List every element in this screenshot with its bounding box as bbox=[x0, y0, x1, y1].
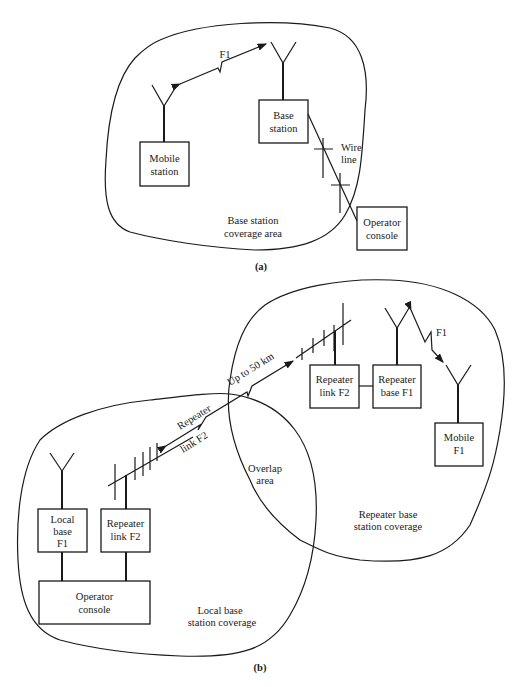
f1-label: F1 bbox=[219, 49, 230, 60]
mobile-label-1: Mobile bbox=[444, 432, 475, 443]
mobile-station-label-1: Mobile bbox=[149, 153, 180, 164]
remote-repeater-link-f2: Repeater link F2 bbox=[296, 303, 359, 408]
antenna-icon bbox=[385, 308, 409, 328]
overlap-label-2: area bbox=[256, 475, 274, 486]
local-coverage-label-2: station coverage bbox=[188, 617, 257, 628]
remote-repeater-base-label-2: base F1 bbox=[381, 387, 413, 398]
antenna-icon bbox=[446, 365, 471, 385]
operator-console-a: Operator console bbox=[357, 207, 407, 250]
wire-label-2: line bbox=[341, 154, 357, 165]
mobile-station: Mobile station bbox=[140, 85, 189, 186]
local-base-label-1: Local bbox=[51, 514, 75, 525]
antenna-icon bbox=[271, 42, 296, 63]
coverage-label-1: Base station bbox=[227, 215, 279, 226]
diagram-a: Mobile station Base station F1 Wire line… bbox=[105, 23, 407, 273]
remote-repeater-base-f1: Repeater base F1 bbox=[373, 308, 421, 408]
repeater-link-label-2: link F2 bbox=[178, 429, 209, 454]
base-station-label-2: station bbox=[270, 123, 299, 134]
remote-repeater-link-label-2: link F2 bbox=[319, 387, 349, 398]
caption-b: (b) bbox=[254, 662, 267, 674]
operator-console-label-1: Operator bbox=[363, 217, 401, 228]
mobile-label-2: F1 bbox=[453, 445, 464, 456]
remote-repeater-link-label-1: Repeater bbox=[316, 374, 354, 385]
wire-label-1: Wire bbox=[341, 142, 362, 153]
local-coverage-label-1: Local base bbox=[197, 605, 243, 616]
repeater-link-f2 bbox=[166, 361, 293, 446]
operator-console-b: Operator console bbox=[39, 581, 150, 624]
coverage-label-2: coverage area bbox=[224, 228, 282, 239]
operator-console-b-label-1: Operator bbox=[76, 591, 114, 602]
mobile-station-label-2: station bbox=[151, 166, 180, 177]
repeater-system-diagram: Mobile station Base station F1 Wire line… bbox=[0, 0, 519, 687]
antenna-icon bbox=[50, 453, 74, 471]
f1-mobile-label: F1 bbox=[436, 327, 447, 338]
remote-repeater-base-label-1: Repeater bbox=[378, 374, 416, 385]
caption-a: (a) bbox=[255, 261, 268, 273]
operator-console-label-2: console bbox=[366, 230, 398, 241]
distance-label: Up to 50 km bbox=[225, 350, 276, 387]
mobile-f1: Mobile F1 bbox=[435, 365, 483, 466]
overlap-label-1: Overlap bbox=[248, 463, 282, 474]
local-repeater-link-f2: Repeater link F2 bbox=[101, 437, 193, 581]
yagi-antenna-icon bbox=[296, 303, 351, 360]
operator-console-b-label-2: console bbox=[78, 604, 110, 615]
local-repeater-link-label-1: Repeater bbox=[107, 518, 145, 529]
base-station: Base station bbox=[259, 42, 308, 143]
local-base-label-3: F1 bbox=[57, 538, 68, 549]
local-repeater-link-label-2: link F2 bbox=[110, 531, 140, 542]
wire-line bbox=[308, 114, 357, 221]
repeater-coverage-label-1: Repeater base bbox=[359, 509, 418, 520]
local-base-f1: Local base F1 bbox=[38, 453, 87, 581]
base-station-label-1: Base bbox=[273, 110, 294, 121]
local-base-label-2: base bbox=[53, 526, 72, 537]
diagram-b: Local base F1 Repeater link F2 Operator … bbox=[18, 280, 505, 674]
repeater-link-label-1: Repeater bbox=[175, 402, 213, 431]
repeater-coverage-label-2: station coverage bbox=[354, 521, 423, 532]
